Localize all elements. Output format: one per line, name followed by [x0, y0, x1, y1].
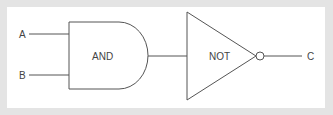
and-gate-label: AND: [92, 51, 113, 62]
logic-circuit-diagram: A B AND NOT C: [0, 0, 333, 115]
inversion-bubble: [256, 52, 264, 60]
input-label-a: A: [19, 29, 26, 40]
not-gate-label: NOT: [209, 51, 230, 62]
input-label-b: B: [19, 70, 26, 81]
output-label-c: C: [307, 51, 314, 62]
